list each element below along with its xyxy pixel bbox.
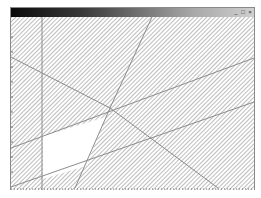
drawing-canvas[interactable] (11, 17, 254, 189)
app-window: _ □ × (10, 7, 255, 190)
window-controls: _ □ × (233, 9, 253, 15)
maximize-button[interactable]: □ (240, 9, 246, 15)
close-button[interactable]: × (247, 9, 253, 15)
hatched-line-drawing (11, 17, 254, 190)
title-bar[interactable]: _ □ × (11, 8, 254, 17)
minimize-button[interactable]: _ (233, 9, 239, 15)
